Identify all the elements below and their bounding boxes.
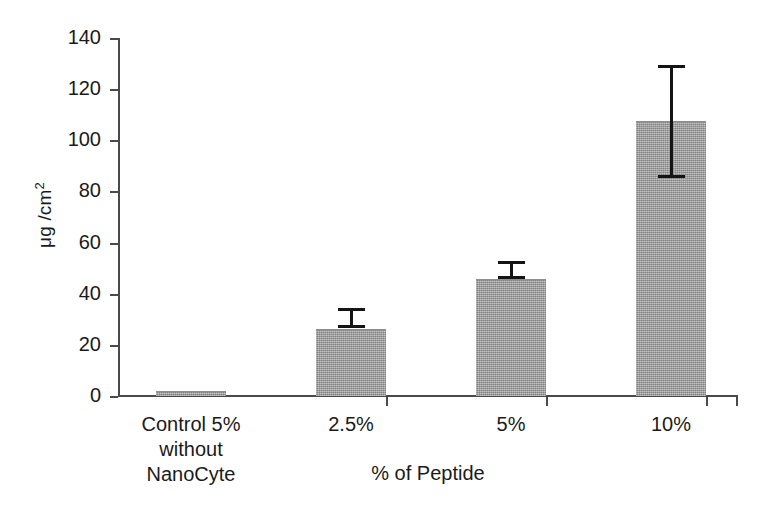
y-axis-line xyxy=(118,38,120,397)
y-tick-100: 100 xyxy=(110,140,118,142)
error-stem xyxy=(670,65,673,178)
y-axis-title-exponent: 2 xyxy=(32,182,47,189)
x-tick-sep-1 xyxy=(386,397,388,406)
error-bar-2-5-percent xyxy=(316,308,386,328)
y-tick-40: 40 xyxy=(110,294,118,296)
x-tick-label-5-percent: 5% xyxy=(431,412,591,437)
y-tick-0: 0 xyxy=(110,396,118,398)
bar-chart: μg /cm2 140 120 100 80 60 40 20 0 xyxy=(0,0,774,513)
y-tick-label-60: 60 xyxy=(49,231,101,253)
y-tick-label-140: 140 xyxy=(49,26,101,48)
error-bar-5-percent xyxy=(476,261,546,279)
x-tick-label-10-percent: 10% xyxy=(591,412,751,437)
plot-area: 140 120 100 80 60 40 20 0 xyxy=(118,38,738,396)
error-cap-bottom xyxy=(658,175,685,178)
error-cap-bottom xyxy=(338,325,365,328)
y-tick-label-40: 40 xyxy=(49,282,101,304)
bar-2-5-percent xyxy=(316,329,386,397)
x-tick-sep-2 xyxy=(546,397,548,406)
y-tick-label-80: 80 xyxy=(49,179,101,201)
error-cap-bottom xyxy=(498,276,525,279)
y-tick-140: 140 xyxy=(110,38,118,40)
y-tick-label-20: 20 xyxy=(49,333,101,355)
y-tick-label-100: 100 xyxy=(49,128,101,150)
y-tick-label-120: 120 xyxy=(49,77,101,99)
x-tick-sep-3 xyxy=(706,397,708,406)
y-tick-120: 120 xyxy=(110,89,118,91)
x-tick-sep-4 xyxy=(736,397,738,406)
error-bar-10-percent xyxy=(636,65,706,178)
y-tick-60: 60 xyxy=(110,243,118,245)
y-tick-80: 80 xyxy=(110,191,118,193)
bar-control xyxy=(156,391,226,396)
bar-5-percent xyxy=(476,279,546,396)
y-tick-20: 20 xyxy=(110,345,118,347)
x-tick-label-2-5-percent: 2.5% xyxy=(271,412,431,437)
x-axis-title: % of Peptide xyxy=(118,462,738,485)
y-tick-label-0: 0 xyxy=(49,384,101,406)
